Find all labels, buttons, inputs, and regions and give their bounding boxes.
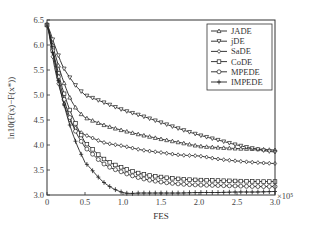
triangle-up-marker — [119, 128, 123, 132]
legend-label: JADE — [231, 26, 252, 36]
square-marker — [159, 175, 163, 179]
triangle-up-marker — [131, 131, 135, 135]
square-marker — [182, 177, 186, 181]
circle-marker — [136, 176, 140, 180]
diamond-marker — [91, 136, 94, 140]
diamond-marker — [188, 153, 191, 157]
circle-marker — [188, 183, 192, 187]
diamond-marker — [245, 160, 248, 164]
square-marker — [211, 179, 215, 183]
x-tick-label: 2.5 — [232, 197, 243, 207]
square-marker — [85, 142, 89, 146]
circle-marker — [102, 162, 106, 166]
triangle-down-marker — [153, 119, 157, 123]
y-tick-label: 4.5 — [33, 115, 44, 125]
triangle-down-marker — [176, 127, 180, 131]
triangle-up-marker — [68, 96, 72, 100]
legend-label: IMPEDE — [231, 77, 263, 87]
circle-marker — [153, 179, 157, 183]
triangle-down-marker — [216, 138, 220, 142]
circle-marker — [210, 183, 214, 187]
triangle-down-marker — [227, 141, 231, 145]
square-marker — [148, 174, 152, 178]
y-tick-label: 3.0 — [33, 190, 44, 200]
triangle-up-marker — [136, 132, 140, 136]
triangle-down-marker — [102, 101, 106, 105]
legend: JADEjDESaDECoDEMPEDEIMPEDE — [207, 24, 272, 90]
square-marker — [256, 180, 260, 184]
triangle-down-marker — [222, 140, 226, 144]
square-marker — [262, 180, 266, 184]
circle-marker — [199, 183, 203, 187]
diamond-marker — [182, 153, 185, 157]
diamond-marker — [137, 147, 140, 151]
square-marker — [97, 153, 101, 157]
triangle-up-marker — [62, 81, 66, 85]
triangle-down-marker — [199, 134, 203, 138]
triangle-up-marker — [210, 145, 214, 149]
diamond-marker — [125, 145, 128, 149]
triangle-down-marker — [159, 121, 163, 125]
triangle-down-marker — [119, 108, 123, 112]
circle-marker — [170, 181, 174, 185]
diamond-marker — [154, 150, 157, 154]
square-marker — [193, 178, 197, 182]
circle-marker — [131, 174, 135, 178]
square-marker — [245, 179, 249, 183]
square-marker — [217, 60, 221, 64]
square-marker — [131, 170, 135, 174]
triangle-down-marker — [131, 111, 135, 115]
y-tick-label: 4.0 — [33, 140, 44, 150]
triangle-up-marker — [199, 144, 203, 148]
circle-marker — [267, 185, 271, 189]
circle-marker — [182, 182, 186, 186]
legend-label: CoDE — [231, 57, 252, 67]
triangle-down-marker — [205, 135, 209, 139]
triangle-down-marker — [210, 137, 214, 141]
circle-marker — [74, 129, 78, 133]
circle-marker — [245, 184, 249, 188]
x-tick-label: 1.0 — [118, 197, 129, 207]
legend-label: MPEDE — [231, 67, 260, 77]
triangle-down-marker — [188, 130, 192, 134]
square-marker — [74, 122, 78, 126]
legend-label: SaDE — [231, 46, 251, 56]
triangle-down-marker — [193, 132, 197, 136]
triangle-up-marker — [102, 123, 106, 127]
triangle-up-marker — [176, 140, 180, 144]
y-tick-label: 6.5 — [33, 15, 44, 25]
square-marker — [216, 179, 220, 183]
circle-marker — [113, 168, 117, 172]
triangle-down-marker — [267, 150, 271, 154]
diamond-marker — [268, 161, 271, 165]
square-marker — [222, 179, 226, 183]
triangle-up-marker — [142, 133, 146, 137]
square-marker — [268, 180, 272, 184]
square-marker — [125, 168, 129, 172]
diamond-marker — [142, 148, 145, 152]
square-marker — [233, 179, 237, 183]
circle-marker — [91, 152, 95, 156]
diamond-marker — [199, 154, 202, 158]
square-marker — [119, 165, 123, 169]
triangle-up-marker — [159, 137, 163, 141]
triangle-up-marker — [148, 135, 152, 139]
diamond-marker — [239, 159, 242, 163]
circle-marker — [205, 183, 209, 187]
triangle-down-marker — [165, 123, 169, 127]
triangle-up-marker — [108, 125, 112, 129]
triangle-down-marker — [85, 94, 89, 98]
square-marker — [250, 180, 254, 184]
triangle-up-marker — [227, 146, 231, 150]
circle-marker — [216, 184, 220, 188]
triangle-down-marker — [262, 149, 266, 153]
triangle-up-marker — [91, 119, 95, 123]
x-axis-title: FES — [153, 211, 169, 221]
square-marker — [188, 178, 192, 182]
circle-marker — [108, 165, 112, 169]
square-marker — [68, 108, 72, 112]
diamond-marker — [205, 155, 208, 159]
circle-marker — [239, 184, 243, 188]
circle-marker — [250, 184, 254, 188]
triangle-down-marker — [136, 113, 140, 117]
